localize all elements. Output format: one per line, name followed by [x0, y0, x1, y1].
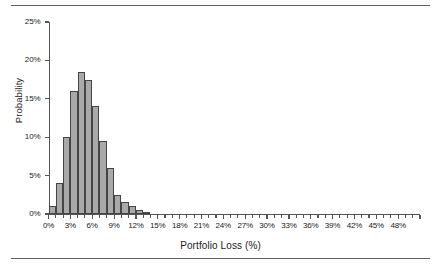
bar: [56, 183, 63, 214]
x-tick-major: [114, 215, 115, 219]
x-tick-minor: [412, 215, 413, 217]
x-tick-minor: [390, 215, 391, 217]
bar: [92, 106, 99, 214]
x-tick-major: [332, 215, 333, 219]
x-tick-minor: [405, 215, 406, 217]
x-tick-minor: [164, 215, 165, 217]
bar: [143, 212, 150, 214]
x-tick-major: [288, 215, 289, 219]
x-tick-minor: [303, 215, 304, 217]
y-axis-line: [49, 22, 50, 215]
x-tick-minor: [274, 215, 275, 217]
y-tick-label: 25%: [15, 17, 41, 26]
x-tick-minor: [84, 215, 85, 217]
x-tick-minor: [208, 215, 209, 217]
bar: [114, 195, 121, 214]
x-tick-major: [245, 215, 246, 219]
x-tick-major: [398, 215, 399, 219]
x-tick-minor: [281, 215, 282, 217]
x-tick-minor: [230, 215, 231, 217]
x-tick-minor: [361, 215, 362, 217]
x-tick-minor: [237, 215, 238, 217]
y-tick-label: 20%: [15, 55, 41, 64]
x-tick-minor: [172, 215, 173, 217]
bar: [129, 206, 136, 214]
x-tick-major: [266, 215, 267, 219]
x-tick-major: [92, 215, 93, 219]
x-tick-minor: [63, 215, 64, 217]
bar: [99, 141, 106, 214]
x-tick-minor: [99, 215, 100, 217]
x-tick-minor: [143, 215, 144, 217]
x-tick-major: [157, 215, 158, 219]
x-tick-major: [70, 215, 71, 219]
bar: [63, 137, 70, 214]
y-tick: [45, 21, 49, 22]
x-tick-major: [48, 215, 49, 219]
bar: [70, 91, 77, 214]
x-tick-minor: [368, 215, 369, 217]
y-tick: [45, 98, 49, 99]
x-tick-major: [354, 215, 355, 219]
y-tick: [45, 137, 49, 138]
x-tick-major: [419, 215, 420, 219]
x-tick-minor: [194, 215, 195, 217]
x-tick-minor: [252, 215, 253, 217]
x-tick-major: [179, 215, 180, 219]
bar: [78, 72, 85, 214]
x-tick-minor: [55, 215, 56, 217]
x-tick-major: [135, 215, 136, 219]
x-tick-major: [201, 215, 202, 219]
x-tick-major: [223, 215, 224, 219]
y-tick: [45, 175, 49, 176]
x-axis-title: Portfolio Loss (%): [0, 240, 441, 251]
x-tick-minor: [347, 215, 348, 217]
x-tick-minor: [259, 215, 260, 217]
x-tick-major: [310, 215, 311, 219]
y-tick-label: 5%: [15, 171, 41, 180]
x-tick-label: 48%: [385, 221, 411, 230]
y-tick-label: 10%: [15, 132, 41, 141]
x-tick-minor: [77, 215, 78, 217]
bar: [136, 210, 143, 214]
x-tick-minor: [339, 215, 340, 217]
x-tick-minor: [150, 215, 151, 217]
bar: [85, 80, 92, 214]
x-tick-minor: [215, 215, 216, 217]
bar: [107, 168, 114, 214]
x-tick-minor: [383, 215, 384, 217]
x-tick-minor: [106, 215, 107, 217]
y-tick-label: 15%: [15, 94, 41, 103]
x-tick-minor: [325, 215, 326, 217]
x-tick-major: [376, 215, 377, 219]
y-tick: [45, 60, 49, 61]
histogram-chart: Probability Portfolio Loss (%) 0%5%10%15…: [0, 0, 441, 271]
y-tick-label: 0%: [15, 209, 41, 218]
x-tick-minor: [128, 215, 129, 217]
x-tick-minor: [317, 215, 318, 217]
x-tick-minor: [296, 215, 297, 217]
bar: [49, 206, 56, 214]
bar: [121, 202, 128, 214]
x-tick-minor: [186, 215, 187, 217]
x-tick-minor: [121, 215, 122, 217]
x-axis-line: [49, 214, 421, 215]
